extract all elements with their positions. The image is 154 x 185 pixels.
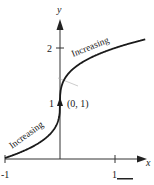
tangent-hint-line xyxy=(58,78,78,86)
annotation-increasing-right: Increasing xyxy=(70,35,111,59)
function-graph: y x 2 1 (0, 1) -1 1 Increasing Increasin… xyxy=(0,0,154,185)
x-tick-label-1: 1 xyxy=(112,169,117,180)
y-tick-label-2: 2 xyxy=(47,43,52,54)
annotation-increasing-left: Increasing xyxy=(7,119,45,150)
graph-canvas: y x 2 1 (0, 1) -1 1 Increasing Increasin… xyxy=(0,0,154,185)
y-axis xyxy=(56,19,64,159)
x-axis xyxy=(5,155,147,163)
x-tick-label-neg1: -1 xyxy=(1,169,9,180)
corner-bar-mark xyxy=(117,178,133,180)
point-marker-icon xyxy=(57,97,63,106)
x-axis-label: x xyxy=(145,157,151,168)
y-axis-label: y xyxy=(56,4,62,15)
point-label: (0, 1) xyxy=(67,98,89,110)
y-tick-label-1: 1 xyxy=(49,98,54,109)
y-axis-arrow-icon xyxy=(57,19,64,30)
